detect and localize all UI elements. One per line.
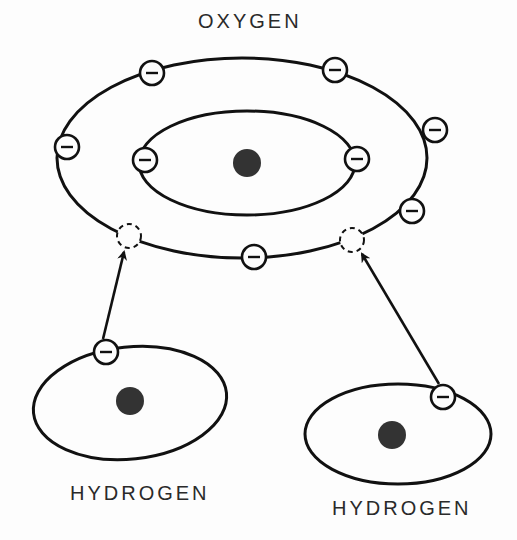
hydrogen-atom-left [28,252,233,469]
hydrogen-right-nucleus [378,421,406,449]
hydrogen-left-bond-arrow [103,252,124,339]
oxygen-outer-electron-0 [55,135,79,159]
oxygen-outer-electron-1 [140,61,164,85]
oxygen-label: OXYGEN [198,10,302,33]
oxygen-nucleus [233,149,261,177]
oxygen-inner-electron-1 [345,147,369,171]
electron-vacancy-0 [117,224,141,248]
hydrogen-left-label: HYDROGEN [70,482,210,505]
oxygen-outer-electron-3 [423,118,447,142]
oxygen-atom [55,58,447,269]
oxygen-outer-electron-4 [400,199,424,223]
water-molecule-diagram: OXYGEN HYDROGEN HYDROGEN [0,0,517,540]
diagram-drawing [0,0,517,540]
hydrogen-left-electron [94,340,118,364]
electron-vacancy-1 [340,228,364,252]
hydrogen-atom-right [305,254,491,484]
oxygen-outer-electron-5 [242,245,266,269]
oxygen-outer-electron-2 [323,58,347,82]
oxygen-inner-electron-0 [133,148,157,172]
hydrogen-right-label: HYDROGEN [332,497,472,520]
hydrogen-right-bond-arrow [362,254,439,384]
hydrogen-left-nucleus [116,387,144,415]
hydrogen-right-electron [431,385,455,409]
